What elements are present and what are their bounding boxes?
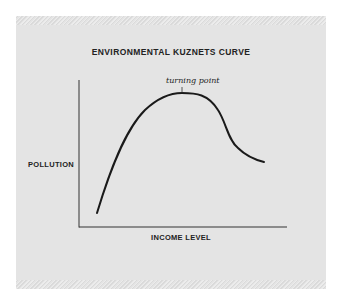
kuznets-curve-line	[97, 93, 264, 213]
kuznets-curve-plot	[0, 0, 342, 300]
